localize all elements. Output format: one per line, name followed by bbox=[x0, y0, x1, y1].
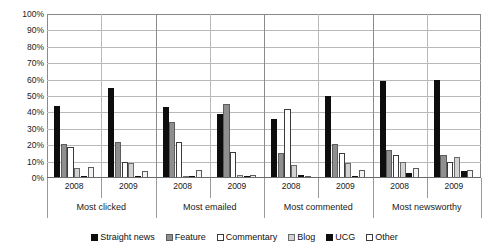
legend-swatch-icon bbox=[217, 234, 224, 241]
bar-straight-news bbox=[163, 107, 169, 178]
bar-blog bbox=[454, 157, 460, 178]
legend-swatch-icon bbox=[91, 234, 98, 241]
y-axis-tick-label: 70% bbox=[0, 59, 44, 68]
bar-straight-news bbox=[54, 106, 60, 178]
bar-commentary bbox=[339, 153, 345, 178]
y-axis-tick-label: 50% bbox=[0, 92, 44, 101]
bar-straight-news bbox=[217, 114, 223, 178]
y-axis-tick-label: 40% bbox=[0, 108, 44, 117]
y-axis-tick-label: 30% bbox=[0, 125, 44, 134]
legend-item[interactable]: Straight news bbox=[91, 232, 155, 242]
legend-label: UCG bbox=[335, 232, 355, 242]
bar-straight-news bbox=[271, 119, 277, 178]
legend-swatch-icon bbox=[326, 234, 333, 241]
x-axis-group-label: Most newsworthy bbox=[373, 202, 482, 212]
bar-feature bbox=[169, 122, 175, 178]
legend-item[interactable]: Blog bbox=[288, 232, 315, 242]
legend-label: Commentary bbox=[226, 232, 278, 242]
bars-layer bbox=[47, 14, 481, 178]
legend-item[interactable]: UCG bbox=[326, 232, 355, 242]
y-axis-tick-label: 100% bbox=[0, 10, 44, 19]
y-axis-tick-label: 20% bbox=[0, 141, 44, 150]
chart-legend: Straight newsFeatureCommentaryBlogUCGOth… bbox=[0, 228, 489, 246]
x-axis-year-label: 2009 bbox=[318, 182, 372, 191]
bar-feature bbox=[61, 144, 67, 178]
y-axis-tick-label: 60% bbox=[0, 76, 44, 85]
legend-label: Blog bbox=[297, 232, 315, 242]
y-axis: 100%90%80%70%60%50%40%30%20%10%0% bbox=[0, 14, 44, 178]
bar-blog bbox=[400, 162, 406, 178]
legend-item[interactable]: Commentary bbox=[217, 232, 278, 242]
bar-commentary bbox=[393, 155, 399, 178]
bar-straight-news bbox=[108, 88, 114, 178]
plot-area bbox=[47, 14, 481, 178]
legend-label: Straight news bbox=[100, 232, 155, 242]
bar-commentary bbox=[176, 142, 182, 178]
x-axis-group-label: Most clicked bbox=[47, 202, 156, 212]
x-axis-year-label: 2008 bbox=[47, 182, 101, 191]
bar-straight-news bbox=[434, 80, 440, 178]
bar-feature bbox=[386, 150, 392, 178]
x-axis-year-row: 20082009200820092008200920082009 bbox=[47, 178, 481, 198]
x-axis-year-label: 2009 bbox=[101, 182, 155, 191]
bar-straight-news bbox=[380, 81, 386, 178]
y-axis-tick-label: 90% bbox=[0, 26, 44, 35]
bar-feature bbox=[115, 142, 121, 178]
bar-feature bbox=[332, 144, 338, 178]
bar-straight-news bbox=[325, 96, 331, 178]
bar-blog bbox=[128, 163, 134, 178]
x-axis-year-label: 2009 bbox=[210, 182, 264, 191]
x-axis-group-label: Most commented bbox=[264, 202, 373, 212]
x-axis-year-label: 2008 bbox=[156, 182, 210, 191]
legend-label: Other bbox=[375, 232, 398, 242]
legend-swatch-icon bbox=[366, 234, 373, 241]
x-axis-year-label: 2008 bbox=[373, 182, 427, 191]
bar-chart: 100%90%80%70%60%50%40%30%20%10%0% 200820… bbox=[0, 0, 489, 250]
x-axis-group-row: Most clickedMost emailedMost commentedMo… bbox=[47, 198, 481, 218]
legend-label: Feature bbox=[175, 232, 206, 242]
bar-commentary bbox=[230, 152, 236, 178]
y-axis-tick-label: 0% bbox=[0, 174, 44, 183]
y-axis-tick-label: 10% bbox=[0, 158, 44, 167]
bar-feature bbox=[440, 155, 446, 178]
x-axis-year-label: 2009 bbox=[427, 182, 481, 191]
x-axis-group-label: Most emailed bbox=[156, 202, 265, 212]
legend-item[interactable]: Other bbox=[366, 232, 398, 242]
bar-blog bbox=[345, 163, 351, 178]
y-axis-tick-label: 80% bbox=[0, 43, 44, 52]
bar-commentary bbox=[284, 109, 290, 178]
legend-swatch-icon bbox=[288, 234, 295, 241]
bar-commentary bbox=[67, 147, 73, 178]
x-axis-tick bbox=[481, 178, 482, 218]
x-axis-year-label: 2008 bbox=[264, 182, 318, 191]
bar-commentary bbox=[447, 162, 453, 178]
bar-commentary bbox=[122, 162, 128, 178]
legend-item[interactable]: Feature bbox=[166, 232, 206, 242]
x-axis: 20082009200820092008200920082009 Most cl… bbox=[47, 178, 481, 218]
bar-feature bbox=[223, 104, 229, 178]
legend-swatch-icon bbox=[166, 234, 173, 241]
bar-feature bbox=[278, 153, 284, 178]
